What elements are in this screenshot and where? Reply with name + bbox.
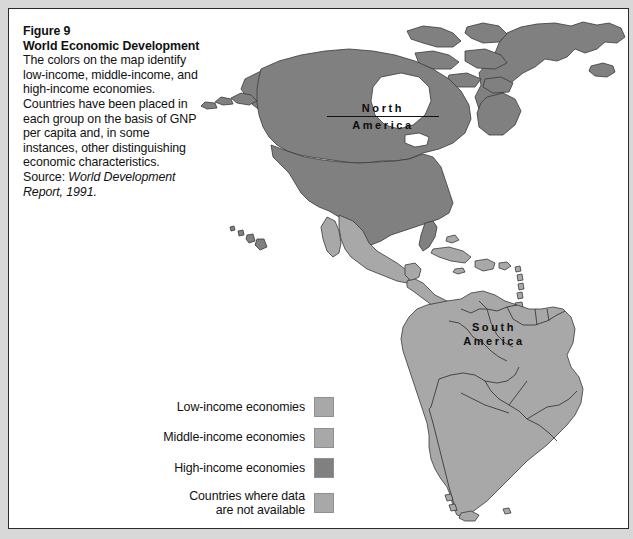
region-lesser-antilles-3: [518, 283, 524, 290]
legend-item-low-income[interactable]: Low-income economies: [159, 397, 334, 417]
map-label-south-america: South America: [439, 320, 549, 348]
figure-caption-body: The colors on the map identify low-incom…: [23, 53, 203, 199]
legend-swatch-no-data: [314, 493, 334, 513]
legend-label-middle-income: Middle-income economies: [163, 430, 314, 444]
map-label-north-america-line1: North: [327, 101, 439, 117]
region-lesser-antilles-1: [515, 266, 521, 272]
region-hawaii-2: [238, 230, 244, 236]
legend-swatch-middle-income: [314, 428, 334, 448]
caption-body-text: The colors on the map identify low-incom…: [23, 53, 198, 184]
map-label-south-america-line2: America: [439, 334, 549, 348]
figure-caption: Figure 9 World Economic Development The …: [23, 24, 203, 199]
legend-swatch-low-income: [314, 397, 334, 417]
legend-label-low-income: Low-income economies: [177, 400, 314, 414]
figure-number: Figure 9: [23, 24, 203, 39]
legend-swatch-high-income: [314, 458, 334, 478]
region-hawaii-1: [230, 226, 235, 231]
legend-label-high-income: High-income economies: [174, 461, 314, 475]
figure-frame: North America South America Figure 9 Wor…: [8, 8, 629, 529]
map-label-north-america-line2: America: [327, 117, 439, 132]
figure-title: World Economic Development: [23, 39, 203, 54]
map-label-north-america: North America: [327, 101, 439, 132]
legend-item-no-data[interactable]: Countries where data are not available: [159, 489, 334, 518]
map-label-south-america-line1: South: [439, 320, 549, 334]
legend-item-high-income[interactable]: High-income economies: [159, 458, 334, 478]
region-lesser-antilles-2: [517, 274, 523, 281]
legend-label-no-data: Countries where data are not available: [189, 489, 314, 518]
region-lesser-antilles-4: [517, 292, 523, 299]
legend-item-middle-income[interactable]: Middle-income economies: [159, 428, 334, 448]
map-legend: Low-income economies Middle-income econo…: [159, 397, 334, 517]
